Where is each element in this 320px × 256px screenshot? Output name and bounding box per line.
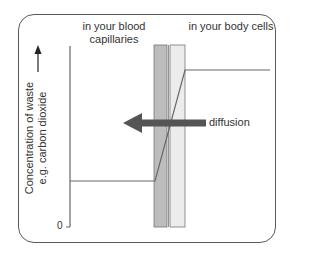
y-axis-label-line1: Concentration of waste <box>23 53 36 223</box>
membrane-light-band <box>170 45 185 227</box>
membrane-dark-band <box>154 45 167 227</box>
y-axis-label-line2: e.g. carbon dioxide <box>36 53 49 223</box>
region-label-capillaries: in your blood capillaries <box>68 20 160 46</box>
y-axis-label: Concentration of waste e.g. carbon dioxi… <box>23 53 53 223</box>
y-axis-origin-label: 0 <box>57 220 63 231</box>
diffusion-label: diffusion <box>209 116 250 128</box>
region-label-body-cells: in your body cells <box>185 20 277 33</box>
